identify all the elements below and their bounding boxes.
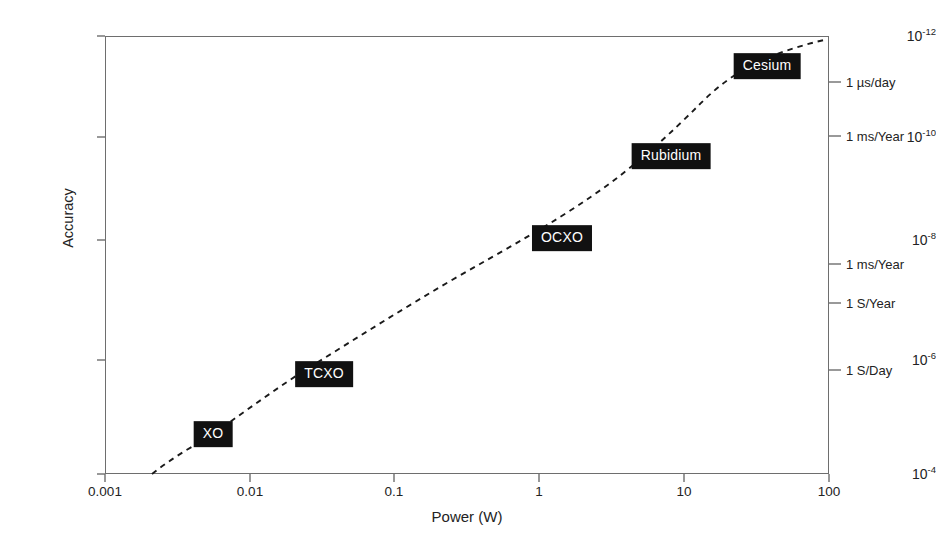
marker-label-rubidium: Rubidium [632, 143, 711, 169]
right-tick-label-1s-year: 1 S/Year [846, 296, 895, 311]
x-tick-label-0.1: 0.1 [385, 484, 404, 499]
x-tick-label-0.001: 0.001 [88, 484, 122, 499]
x-axis-title: Power (W) [105, 508, 829, 525]
y-axis-title: Accuracy [60, 138, 76, 298]
marker-label-tcxo: TCXO [295, 361, 353, 387]
y-tick-label-1e-4: 10-4 [844, 466, 936, 482]
chart-figure: 10-12 10-10 10-8 10-6 10-4 0.001 0.01 0.… [0, 0, 936, 544]
x-tick-label-0.01: 0.01 [237, 484, 263, 499]
right-tick-label-1us-day: 1 µs/day [846, 75, 895, 90]
x-tick-label-1: 1 [535, 484, 543, 499]
right-tick-label-1s-day: 1 S/Day [846, 363, 892, 378]
marker-label-ocxo: OCXO [532, 225, 592, 251]
y-tick-label-1e-8: 10-8 [844, 232, 936, 248]
x-tick-label-10: 10 [676, 484, 691, 499]
marker-label-xo: XO [194, 421, 233, 447]
marker-label-cesium: Cesium [734, 53, 801, 79]
right-tick-label-1ms-year-b: 1 ms/Year [846, 257, 904, 272]
right-tick-label-1ms-year-a: 1 ms/Year [846, 129, 904, 144]
y-tick-label-1e-12: 10-12 [844, 28, 936, 44]
plot-area [105, 36, 829, 474]
x-tick-label-100: 100 [818, 484, 841, 499]
